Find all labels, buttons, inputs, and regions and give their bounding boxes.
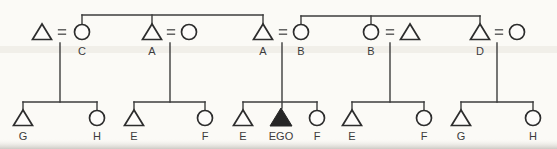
child-male-symbol-E <box>125 110 144 126</box>
label-C: C <box>78 45 86 57</box>
child-male-symbol-E <box>343 110 362 126</box>
child-female-symbol-F <box>310 111 325 126</box>
label-f: F <box>202 130 209 142</box>
parent-male-symbol-A <box>143 24 162 40</box>
ego-symbol <box>270 108 292 126</box>
kinship-diagram: CAABBDGHEFEEGOFEFGH <box>0 0 557 149</box>
child-male-symbol-G <box>452 110 471 126</box>
label-e: E <box>239 130 246 142</box>
child-female-symbol-H <box>526 111 541 126</box>
label-e: E <box>130 130 137 142</box>
parent-female-symbol-B <box>294 25 309 40</box>
parent-male-symbol <box>401 24 420 40</box>
parent-female-symbol-B <box>364 25 379 40</box>
label-B: B <box>297 45 304 57</box>
label-f: F <box>314 130 321 142</box>
parent-female-symbol <box>510 25 525 40</box>
child-male-symbol-G <box>14 110 33 126</box>
child-female-symbol-H <box>90 111 105 126</box>
label-e: E <box>348 130 355 142</box>
parent-male-symbol-A <box>254 24 273 40</box>
label-h: H <box>93 130 101 142</box>
parent-female-symbol-C <box>75 25 90 40</box>
label-g: G <box>457 130 466 142</box>
label-h: H <box>529 130 537 142</box>
label-g: G <box>19 130 28 142</box>
child-male-symbol-E <box>234 110 253 126</box>
parent-female-symbol <box>182 25 197 40</box>
label-D: D <box>476 45 484 57</box>
label-A: A <box>259 45 267 57</box>
label-f: F <box>421 130 428 142</box>
parent-male-symbol <box>33 24 52 40</box>
child-female-symbol-F <box>198 111 213 126</box>
label-A: A <box>148 45 156 57</box>
kinship-diagram-page: CAABBDGHEFEEGOFEFGH <box>0 0 557 149</box>
label-ego: EGO <box>269 130 294 142</box>
label-B: B <box>367 45 374 57</box>
parent-male-symbol-D <box>471 24 490 40</box>
child-female-symbol-F <box>417 111 432 126</box>
